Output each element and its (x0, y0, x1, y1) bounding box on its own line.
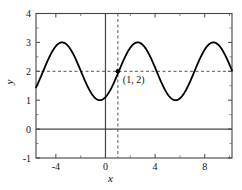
y-tick-label: 2 (26, 66, 31, 77)
figure: -4048 -101234 (1, 2) y x (0, 0, 242, 190)
point-1-2-label: (1, 2) (123, 74, 145, 86)
x-tick-label: 0 (103, 161, 108, 172)
y-tick-label: 1 (26, 95, 31, 106)
chart-canvas: -4048 -101234 (1, 2) (0, 0, 242, 190)
y-tick-label: -1 (23, 153, 31, 164)
y-tick-label: 0 (26, 124, 31, 135)
y-axis-label: y (3, 75, 15, 89)
point-1-2-marker (116, 69, 120, 73)
x-tick-label: 4 (153, 161, 158, 172)
y-tick-label: 3 (26, 37, 31, 48)
y-tick-label: 4 (26, 8, 31, 19)
x-tick-label: -4 (52, 161, 60, 172)
x-tick-label: 8 (202, 161, 207, 172)
x-axis-label: x (108, 172, 113, 184)
